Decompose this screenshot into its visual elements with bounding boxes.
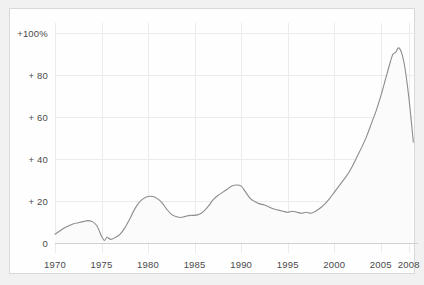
y-axis-tick-label: + 20 <box>28 195 48 206</box>
line-series <box>55 23 418 253</box>
x-axis-tick-label: 1975 <box>91 259 113 270</box>
x-axis-tick-label: 1990 <box>230 259 252 270</box>
x-axis-tick-label: 2008 <box>398 259 420 270</box>
x-axis-tick-label: 1980 <box>137 259 159 270</box>
x-axis-tick-label: 1970 <box>44 259 66 270</box>
y-axis-tick-label: + 60 <box>28 112 48 123</box>
y-axis-tick-label: + 40 <box>28 153 48 164</box>
figure-frame: 0+ 20+ 40+ 60+ 80+100% 19701975198019851… <box>0 0 424 285</box>
x-axis-tick-label: 2000 <box>323 259 345 270</box>
y-axis-tick-label: 0 <box>43 237 48 248</box>
y-axis-tick-label: + 80 <box>28 70 48 81</box>
x-axis-tick-label: 2005 <box>370 259 392 270</box>
series-area-fill <box>55 48 413 243</box>
plot-area: 0+ 20+ 40+ 60+ 80+100% 19701975198019851… <box>55 23 418 253</box>
chart-card: 0+ 20+ 40+ 60+ 80+100% 19701975198019851… <box>9 8 415 274</box>
y-axis-tick-label: +100% <box>17 28 48 39</box>
x-axis-tick-label: 1985 <box>184 259 206 270</box>
x-axis-tick-label: 1995 <box>277 259 299 270</box>
